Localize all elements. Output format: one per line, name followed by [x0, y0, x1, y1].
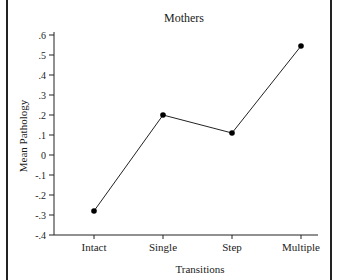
series-line — [94, 46, 301, 211]
y-tick-label: -.1 — [35, 170, 46, 181]
data-point-marker — [91, 208, 97, 214]
y-tick-label: -.2 — [35, 190, 46, 201]
data-point-marker — [160, 112, 166, 118]
y-tick-label: -.3 — [35, 210, 46, 221]
y-tick-label: .1 — [39, 130, 47, 141]
y-tick-label: -.4 — [35, 230, 46, 241]
plot-area: .6.5.4.3.2.10-.1-.2-.3-.4IntactSingleSte… — [0, 0, 338, 280]
y-tick-label: 0 — [41, 150, 46, 161]
x-tick-label: Intact — [81, 241, 106, 253]
y-tick-label: .3 — [39, 90, 47, 101]
data-point-marker — [229, 130, 235, 136]
y-tick-label: .4 — [39, 70, 47, 81]
data-point-marker — [298, 43, 304, 49]
y-tick-label: .6 — [39, 30, 47, 41]
y-tick-label: .5 — [39, 50, 47, 61]
x-tick-label: Multiple — [282, 241, 320, 253]
y-tick-label: .2 — [39, 110, 47, 121]
x-tick-label: Step — [222, 241, 242, 253]
x-tick-label: Single — [149, 241, 177, 253]
